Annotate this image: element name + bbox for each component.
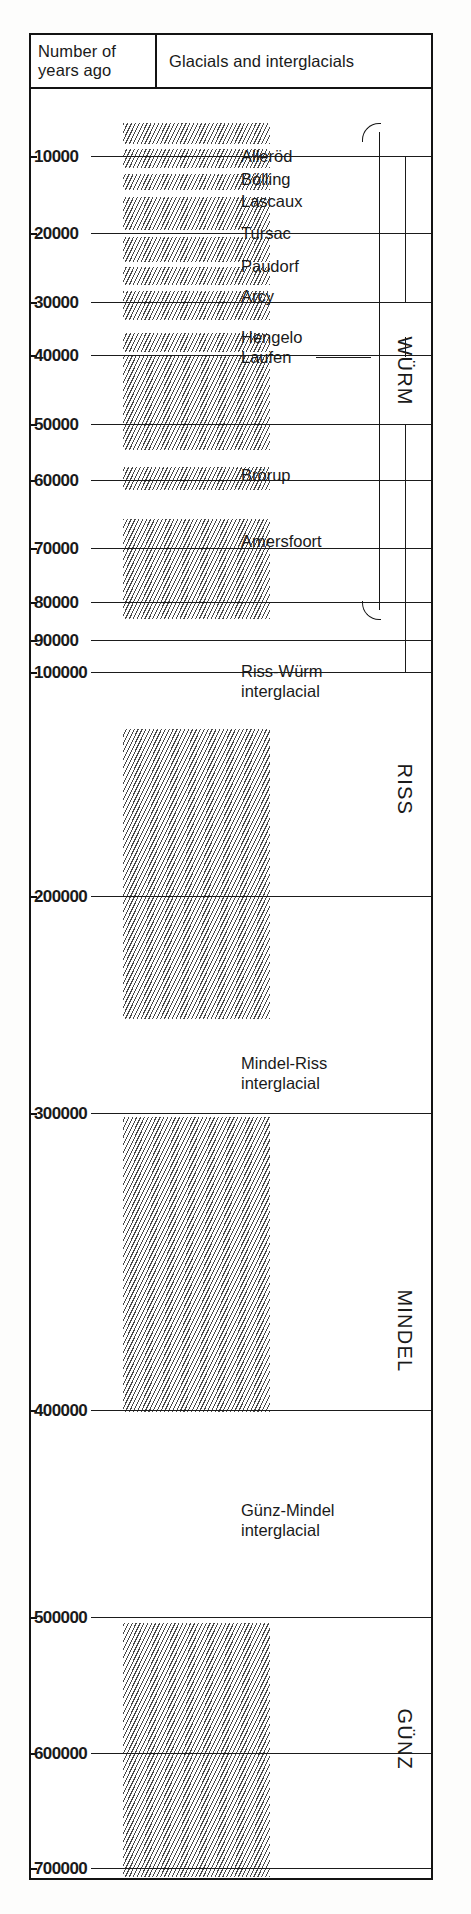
interstadial-label-lascaux: Lascaux	[241, 192, 302, 211]
interglacial-label-line1: Günz-Mindel	[241, 1501, 335, 1521]
boundary-rule	[91, 1617, 431, 1618]
axis-tick-label-400000: 400000	[34, 1402, 87, 1419]
interglacial-label-line2: interglacial	[241, 1520, 335, 1540]
axis-tick-label-600000: 600000	[34, 1745, 87, 1762]
boundary-rule	[91, 896, 431, 897]
header-cell-years: Number of years ago	[38, 33, 153, 89]
header-cell-glacials: Glacials and interglacials	[169, 33, 429, 89]
interstadial-label-brrup: Brörup	[241, 466, 291, 485]
boundary-rule	[91, 1868, 431, 1869]
cold-phase-bar	[123, 1117, 270, 1412]
interglacial-label-line1: Mindel-Riss	[241, 1054, 327, 1074]
wurm-bracket-top-cap	[362, 123, 381, 142]
axis-tick-label-700000: 700000	[34, 1860, 87, 1877]
interstadial-label-tursac: Tursac	[241, 224, 291, 243]
boundary-rule	[91, 1410, 431, 1411]
axis-tick-label-60000: 60000	[34, 472, 78, 489]
header-years-line1: Number of	[38, 42, 116, 61]
axis-tick-label-30000: 30000	[34, 294, 78, 311]
interstadial-label-paudorf: Paudorf	[241, 257, 299, 276]
axis-tick-label-100000: 100000	[34, 664, 87, 681]
axis-tick-label-50000: 50000	[34, 416, 78, 433]
table-header: Number of years ago Glacials and intergl…	[29, 33, 433, 89]
boundary-rule	[91, 1113, 431, 1114]
stage-column-divider	[405, 156, 406, 302]
axis-tick-label-300000: 300000	[34, 1105, 87, 1122]
glacial-stage-label-riss: RISS	[393, 764, 416, 815]
interstadial-label-blling: Bölling	[241, 170, 291, 189]
boundary-rule	[91, 640, 431, 641]
interstadial-label-amersfoort: Amersfoort	[241, 532, 322, 551]
interglacial-label-risswrm: Riss-Würminterglacial	[241, 662, 323, 701]
cold-phase-bar	[123, 356, 270, 450]
interglacial-label-mindelriss: Mindel-Rissinterglacial	[241, 1054, 327, 1093]
axis-tick-label-200000: 200000	[34, 888, 87, 905]
header-glacials-label: Glacials and interglacials	[169, 52, 354, 71]
interglacial-label-line1: Riss-Würm	[241, 662, 323, 682]
laufen-connector-line	[316, 357, 371, 358]
interstadial-label-allerd: Alleröd	[241, 147, 292, 166]
glacial-stage-label-mindel: MINDEL	[393, 1290, 416, 1373]
cold-phase-bar	[123, 123, 270, 144]
glacial-stage-label-gnz: GÜNZ	[393, 1709, 416, 1770]
stage-column-divider	[405, 337, 406, 357]
cold-phase-bar	[123, 729, 270, 1019]
stage-column-divider	[405, 424, 406, 672]
interstadial-label-laufen: Laufen	[241, 348, 291, 367]
interstadial-label-hengelo: Hengelo	[241, 328, 302, 347]
axis-tick-label-90000: 90000	[34, 632, 78, 649]
cold-phase-bar	[123, 1623, 270, 1877]
glacial-chronology-figure: Number of years ago Glacials and intergl…	[0, 0, 471, 1914]
interglacial-label-line2: interglacial	[241, 1073, 327, 1093]
interglacial-label-gnzmindel: Günz-Mindelinterglacial	[241, 1501, 335, 1540]
interstadial-label-arcy: Arcy	[241, 287, 274, 306]
boundary-rule	[91, 424, 431, 425]
axis-tick-label-500000: 500000	[34, 1609, 87, 1626]
axis-tick-label-20000: 20000	[34, 225, 78, 242]
header-column-divider	[155, 33, 157, 89]
axis-tick-label-40000: 40000	[34, 347, 78, 364]
header-years-line2: years ago	[38, 61, 116, 80]
wurm-bracket-stem	[379, 132, 380, 610]
interglacial-label-line2: interglacial	[241, 681, 323, 701]
wurm-bracket-bottom-cap	[362, 601, 381, 620]
axis-tick-label-80000: 80000	[34, 594, 78, 611]
plot-area: 1000020000300004000050000600007000080000…	[31, 89, 431, 1878]
boundary-rule	[91, 1753, 431, 1754]
axis-tick-label-10000: 10000	[34, 148, 78, 165]
axis-tick-label-70000: 70000	[34, 540, 78, 557]
